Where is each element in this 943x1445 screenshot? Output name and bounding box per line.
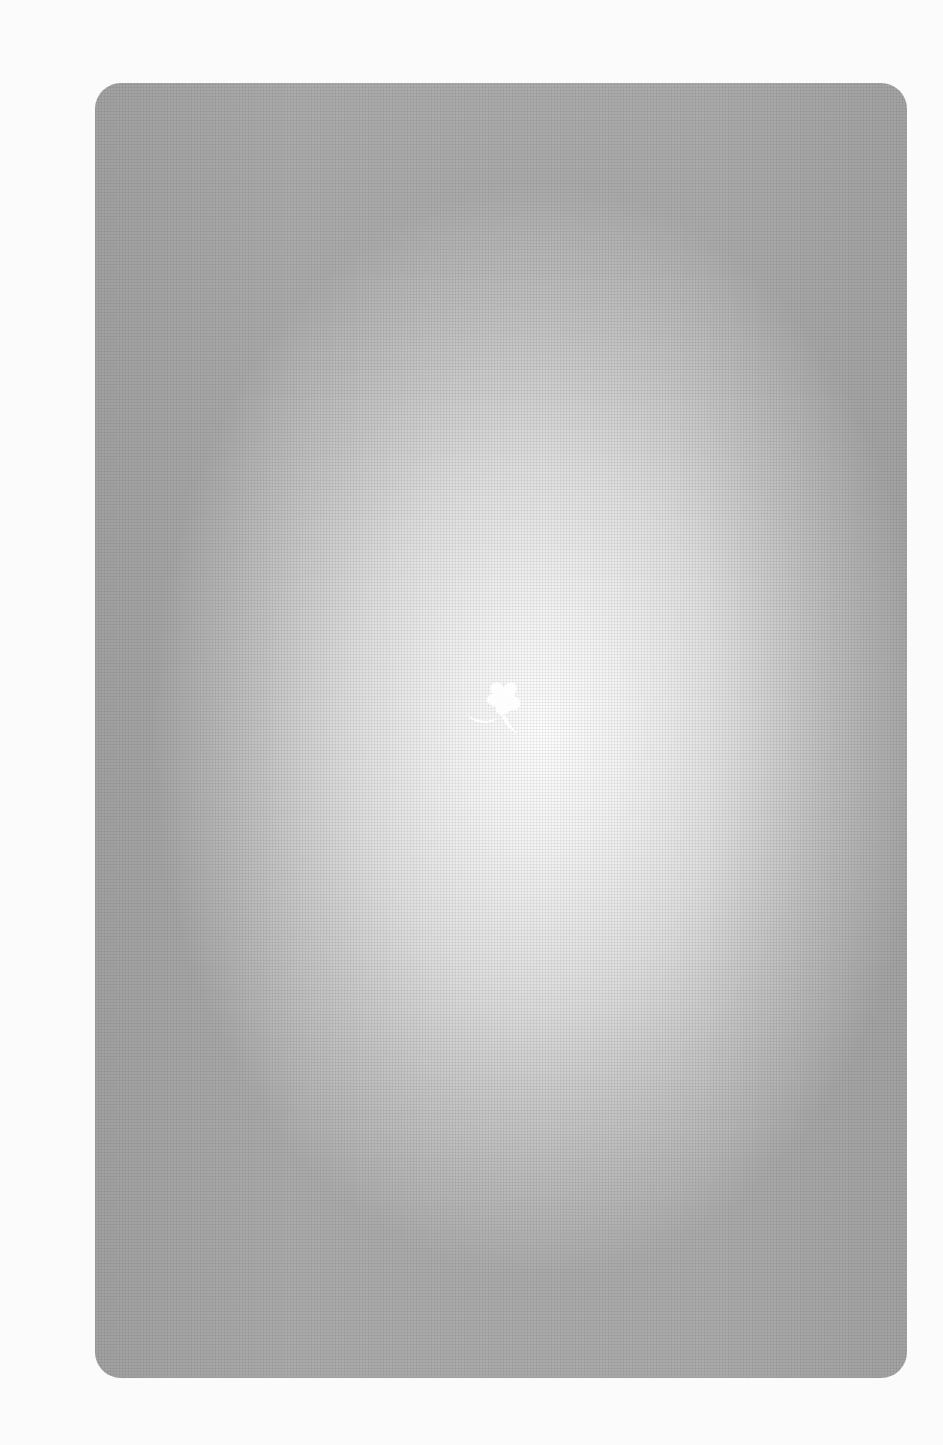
leaf-clover-icon bbox=[462, 672, 542, 742]
